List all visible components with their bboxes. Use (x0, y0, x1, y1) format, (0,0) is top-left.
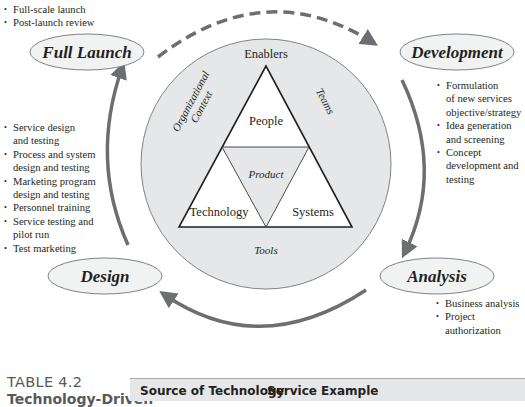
list-item: Business analysis (436, 297, 519, 310)
list-item: Formulationof new servicesobjective/stra… (437, 79, 521, 119)
svg-text:Full Launch: Full Launch (41, 43, 131, 62)
product-label: Product (247, 168, 284, 180)
arrow-design-to-full-launch (107, 68, 128, 245)
arrow-development-to-analysis (402, 80, 424, 252)
svg-text:Design: Design (79, 267, 129, 286)
list-item: Post-launch review (4, 16, 95, 29)
enablers-label: Enablers (244, 47, 288, 61)
design-activities: Service designand testing Process and sy… (4, 121, 96, 255)
stage-analysis: Analysis (380, 258, 494, 294)
stage-design: Design (48, 258, 162, 294)
svg-text:Development: Development (410, 43, 504, 62)
column-header-source: Source of Technology (140, 384, 284, 398)
list-item: Conceptdevelopment andtesting (437, 146, 521, 186)
list-item: Test marketing (4, 242, 96, 255)
stage-full-launch: Full Launch (30, 34, 144, 70)
list-item: Service designand testing (4, 121, 96, 148)
systems-label: Systems (292, 205, 334, 219)
list-item: Personnel training (4, 201, 96, 214)
list-item: Full-scale launch (4, 3, 95, 16)
people-label: People (249, 114, 283, 128)
list-item: Marketing programdesign and testing (4, 175, 96, 202)
list-item: Projectauthorization (436, 310, 519, 337)
list-item: Service testing andpilot run (4, 215, 96, 242)
full-launch-activities: Full-scale launch Post-launch review (4, 3, 95, 30)
arrow-analysis-to-design (165, 290, 366, 326)
development-activities: Formulationof new servicesobjective/stra… (437, 79, 521, 186)
tools-label: Tools (254, 244, 277, 256)
technology-label: Technology (190, 205, 250, 219)
table-header-row: Source of Technology Service Example (130, 378, 525, 401)
analysis-activities: Business analysis Projectauthorization (436, 297, 519, 337)
stage-development: Development (400, 34, 514, 70)
list-item: Idea generationand screening (437, 119, 521, 146)
svg-text:Analysis: Analysis (406, 267, 467, 286)
list-item: Process and systemdesign and testing (4, 148, 96, 175)
column-header-example: Service Example (267, 384, 378, 398)
